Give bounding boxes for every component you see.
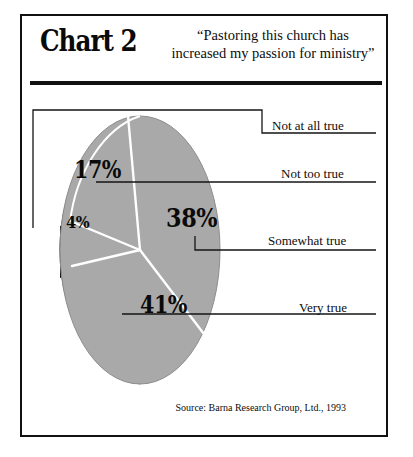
chart-header: Chart 2 “Pastoring this church has incre… xyxy=(22,16,386,82)
slice-value-not-too-true: 17% xyxy=(74,155,121,184)
slice-value-not-at-all-true: 4% xyxy=(66,212,89,232)
source-note: Source: Barna Research Group, Ltd., 1993 xyxy=(0,402,378,413)
page-title: Chart 2 xyxy=(40,24,137,58)
category-label-somewhat-true: Somewhat true xyxy=(268,233,346,248)
category-label-not-too-true: Not too true xyxy=(281,166,344,181)
category-label-very-true: Very true xyxy=(299,300,347,315)
quote-line-1: “Pastoring this church has xyxy=(162,26,384,44)
category-label-not-at-all-true: Not at all true xyxy=(272,118,344,133)
chart-page: Chart 2 “Pastoring this church has incre… xyxy=(0,0,413,457)
chart-subtitle-quote: “Pastoring this church has increased my … xyxy=(162,26,384,62)
slice-value-very-true: 41% xyxy=(140,290,187,319)
slice-value-somewhat-true: 38% xyxy=(166,203,217,233)
quote-line-2: increased my passion for ministry” xyxy=(162,44,384,62)
header-divider-rule xyxy=(30,81,382,85)
